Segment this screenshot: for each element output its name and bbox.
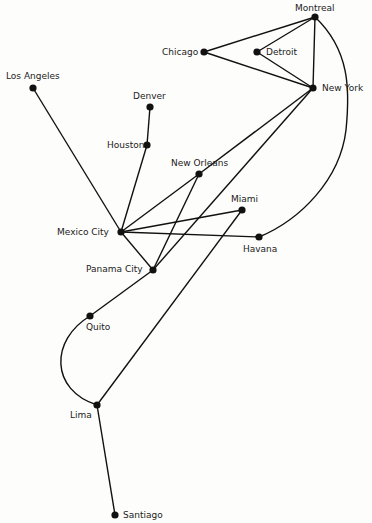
label-neworleans: New Orleans <box>171 158 228 168</box>
node-houston <box>143 141 150 148</box>
label-santiago: Santiago <box>123 510 163 520</box>
node-panamacity <box>149 266 156 273</box>
label-panamacity: Panama City <box>86 264 143 274</box>
edge-panamacity-quito <box>90 270 153 316</box>
node-neworleans <box>195 170 202 177</box>
network-diagram: MontrealChicagoDetroitNew YorkLos Angele… <box>0 0 372 523</box>
edge-lima-santiago <box>97 405 115 515</box>
label-houston: Houston <box>107 140 144 150</box>
node-miami <box>238 206 245 213</box>
edge-denver-houston <box>147 107 150 145</box>
node-havana <box>255 233 262 240</box>
label-montreal: Montreal <box>295 3 335 13</box>
edge-chicago-montreal <box>204 17 315 52</box>
node-lima <box>93 401 100 408</box>
edge-houston-mexicocity <box>121 145 147 232</box>
node-denver <box>146 103 153 110</box>
edge-losangeles-mexicocity <box>33 88 121 232</box>
node-detroit <box>253 48 260 55</box>
node-chicago <box>200 48 207 55</box>
edge-mexicocity-havana <box>121 232 259 237</box>
edge-chicago-newyork <box>204 52 313 88</box>
label-losangeles: Los Angeles <box>6 71 60 81</box>
node-mexicocity <box>117 228 124 235</box>
label-chicago: Chicago <box>162 47 198 57</box>
label-lima: Lima <box>70 410 92 420</box>
node-newyork <box>309 84 316 91</box>
edge-newyork-panamacity <box>153 88 313 270</box>
label-denver: Denver <box>133 91 166 101</box>
edge-miami-lima <box>97 210 242 405</box>
edge-mexicocity-miami <box>121 210 242 232</box>
label-detroit: Detroit <box>266 47 297 57</box>
node-montreal <box>311 13 318 20</box>
label-newyork: New York <box>322 83 363 93</box>
edge-detroit-newyork <box>257 52 313 88</box>
node-santiago <box>111 511 118 518</box>
label-quito: Quito <box>86 322 110 332</box>
label-miami: Miami <box>231 194 258 204</box>
label-mexicocity: Mexico City <box>57 227 109 237</box>
node-quito <box>86 312 93 319</box>
edge-montreal-newyork <box>313 17 315 88</box>
edge-mexicocity-neworleans <box>121 174 199 232</box>
edge-neworleans-panamacity <box>153 174 199 270</box>
label-havana: Havana <box>243 244 277 254</box>
node-losangeles <box>29 84 36 91</box>
